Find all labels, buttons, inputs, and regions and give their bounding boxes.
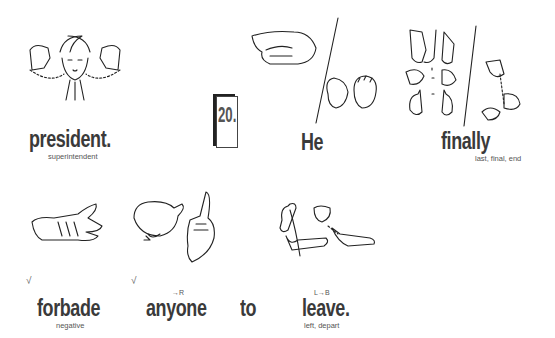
sign-gloss-finally: last, final, end (475, 155, 521, 163)
sign-word-anyone: anyone (146, 297, 206, 320)
anyone-sign-illustration (130, 190, 220, 265)
sign-word-finally: finally (441, 130, 490, 153)
he-sign-illustration (250, 18, 390, 128)
sign-gloss-forbade: negative (56, 322, 84, 330)
sign-word-to: to (240, 297, 256, 320)
sentence-number: 20. (218, 104, 236, 126)
president-sign-illustration (20, 30, 130, 105)
finally-sign-illustration (400, 20, 540, 130)
forbade-sign-illustration (28, 200, 108, 250)
check-mark-anyone: √ (131, 276, 137, 286)
sign-word-he: He (301, 131, 323, 154)
sign-gloss-leave: left, depart (304, 322, 339, 330)
sign-gloss-president: superintendent (48, 153, 98, 161)
sign-word-president: president. (29, 128, 111, 151)
sign-word-leave: leave. (302, 297, 350, 320)
sign-word-forbade: forbade (37, 297, 100, 320)
leave-sign-illustration (270, 200, 380, 260)
check-mark-forbade: √ (26, 276, 32, 286)
